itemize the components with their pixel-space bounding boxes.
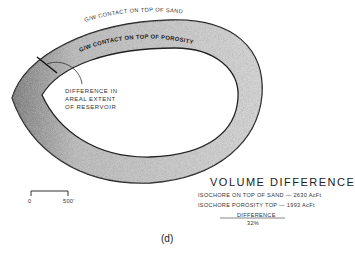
callout-areal-extent: DIFFERENCE IN AREAL EXTENT OF RESERVOIR bbox=[65, 87, 118, 111]
isochore-porosity-line: ISOCHORE POROSITY TOP — 1993 AcFt bbox=[198, 202, 315, 208]
isochore-sand-line: ISOCHORE ON TOP OF SAND — 2630 AcFt bbox=[198, 192, 321, 198]
scale-bar bbox=[31, 191, 68, 196]
figure-caption: (d) bbox=[161, 233, 173, 244]
volume-difference-title: VOLUME DIFFERENCE bbox=[210, 176, 355, 188]
scale-start-label: 0 bbox=[28, 198, 31, 204]
difference-label: DIFFERENCE bbox=[237, 212, 276, 218]
scale-end-label: 500' bbox=[63, 198, 75, 204]
difference-value: 32% bbox=[247, 220, 259, 226]
